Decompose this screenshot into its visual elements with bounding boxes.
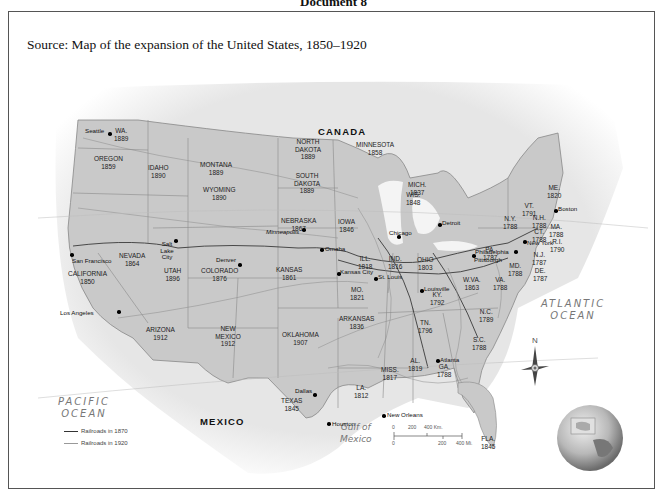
scale-mi-400: 400 Mi.	[456, 440, 472, 446]
city-label: New York	[527, 239, 553, 246]
city-label: Houston	[332, 420, 355, 427]
map-graphic: N	[38, 78, 648, 478]
city-marker-icon	[327, 422, 331, 426]
map-legend: Railroads in 1870 Railroads in 1920	[64, 425, 128, 449]
state-label: ARIZONA1912	[146, 326, 175, 341]
state-label: CALIFORNIA1850	[68, 270, 107, 285]
city-label: Seattle	[85, 127, 104, 134]
us-expansion-map: N CANADA MEXICO PACIFIC OCEAN ATLANTIC O…	[38, 78, 648, 478]
state-label: NEW MEXICO1912	[214, 325, 242, 348]
state-label: NORTH DAKOTA1889	[294, 138, 322, 161]
city-marker-icon	[320, 248, 324, 252]
city-label: Detroit	[442, 219, 460, 226]
atlantic-ocean-label: ATLANTIC OCEAN	[541, 298, 605, 322]
legend-label-1920: Railroads in 1920	[81, 440, 128, 446]
state-label: OREGON1859	[94, 155, 123, 170]
state-label: MINNESOTA1858	[356, 141, 394, 156]
state-label: UTAH1896	[164, 267, 181, 282]
scale-bar	[394, 432, 462, 440]
state-label: GA.1788	[437, 363, 451, 378]
state-label: N.Y.1788	[503, 215, 517, 230]
globe-locator-icon	[557, 405, 623, 471]
state-label: SOUTH DAKOTA1889	[293, 172, 321, 195]
city-label: Salt Lake City	[158, 241, 176, 261]
country-label-mexico: MEXICO	[200, 416, 245, 427]
state-label: WA.1889	[114, 127, 128, 142]
city-label: Atlanta	[440, 356, 459, 363]
city-marker-icon	[420, 289, 424, 293]
state-label: COLORADO1876	[201, 267, 238, 282]
state-label: MICH.1837	[408, 181, 426, 196]
city-marker-icon	[238, 263, 242, 267]
state-label: S.C.1788	[472, 336, 486, 351]
scale-km-200: 200	[408, 424, 416, 430]
city-marker-icon	[382, 414, 386, 418]
city-label: Chicago	[389, 229, 412, 236]
city-label: New Orleans	[387, 411, 423, 418]
state-label: IDAHO1890	[148, 164, 169, 179]
city-marker-icon	[108, 132, 112, 136]
state-label: N.H.1788	[532, 214, 546, 229]
state-label: TN.1796	[418, 319, 432, 334]
city-marker-icon	[514, 250, 518, 254]
state-label: W.VA.1863	[463, 276, 481, 291]
city-marker-icon	[523, 240, 527, 244]
state-label: MISS.1817	[381, 366, 399, 381]
city-marker-icon	[554, 209, 558, 213]
rail-1920-line-icon	[64, 443, 78, 444]
state-label: KANSAS1861	[276, 266, 302, 281]
city-label: Omaha	[325, 245, 345, 252]
state-label: VA.1788	[493, 276, 507, 291]
city-label: St. Louis	[378, 273, 402, 280]
scale-mi-200: 200	[438, 440, 446, 446]
city-marker-icon	[117, 310, 121, 314]
state-label: DE.1787	[533, 267, 547, 282]
city-marker-icon	[302, 228, 306, 232]
legend-label-1870: Railroads in 1870	[81, 428, 128, 434]
state-label: IND.1816	[388, 255, 402, 270]
state-label: MA.1788	[549, 223, 563, 238]
state-label: MD.1788	[508, 262, 522, 277]
state-label: FLA.1845	[481, 435, 495, 450]
city-label: Louisville	[424, 285, 449, 292]
city-label: Minneapolis	[266, 228, 299, 235]
scale-km-0: 0	[392, 424, 395, 430]
state-label: ARKANSAS1836	[339, 315, 374, 330]
city-marker-icon	[70, 253, 74, 257]
state-label: KY.1792	[430, 291, 444, 306]
state-label: OKLAHOMA1907	[282, 331, 319, 346]
country-label-canada: CANADA	[318, 126, 366, 137]
scale-km-400: 400 Km.	[424, 424, 443, 430]
city-marker-icon	[313, 393, 317, 397]
city-marker-icon	[374, 277, 378, 281]
state-label: AL.1819	[408, 357, 422, 372]
state-label: LA.1812	[354, 384, 368, 399]
state-label: WYOMING1890	[203, 186, 236, 201]
document-heading: Document 8	[0, 0, 667, 10]
city-label: Philadelphia	[475, 248, 509, 255]
state-label: TEXAS1845	[281, 397, 302, 412]
state-label: MONTANA1889	[200, 161, 232, 176]
svg-text:N: N	[532, 336, 538, 345]
pacific-ocean-label: PACIFIC OCEAN	[58, 396, 110, 420]
source-caption: Source: Map of the expansion of the Unit…	[27, 37, 367, 53]
state-label: MO.1821	[350, 286, 364, 301]
city-label: Denver	[216, 256, 236, 263]
city-marker-icon	[436, 359, 440, 363]
city-label: Boston	[558, 205, 577, 212]
state-label: N.C.1789	[479, 308, 493, 323]
state-label: IOWA1846	[338, 218, 355, 233]
city-label: Dallas	[295, 387, 312, 394]
state-label: NEVADA1864	[119, 252, 145, 267]
state-label: ME.1820	[547, 184, 561, 199]
rail-1870-line-icon	[64, 431, 78, 432]
state-label: OHIO1803	[417, 256, 434, 271]
city-label: Los Angeles	[60, 309, 94, 316]
city-label: Pittsburgh	[474, 256, 502, 263]
state-label: N.J.1787	[532, 251, 546, 266]
city-marker-icon	[438, 223, 442, 227]
legend-row-1920: Railroads in 1920	[64, 437, 128, 449]
city-label: San Francisco	[72, 257, 112, 264]
scale-mi-0: 0	[392, 440, 395, 446]
city-label: Kansas City	[340, 268, 373, 275]
